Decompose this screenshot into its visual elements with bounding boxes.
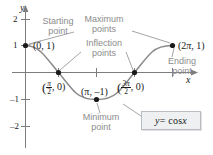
equation-callout-box: y = cos x bbox=[141, 111, 201, 130]
y-tick-neg1: –1 bbox=[10, 95, 19, 104]
point-inflection-1 bbox=[56, 70, 61, 75]
point-label-end: (2π, 1) bbox=[178, 41, 205, 51]
starting-point-line2: point bbox=[48, 26, 68, 36]
ending-point-line1: Ending bbox=[168, 56, 196, 66]
y-axis bbox=[21, 5, 30, 148]
pi32-numerator: 3π bbox=[121, 80, 131, 88]
y-tick-2: 2 bbox=[13, 15, 18, 24]
end-label-rest: , 1) bbox=[191, 40, 204, 51]
point-minimum bbox=[94, 97, 99, 102]
inflection-points-line2: points bbox=[92, 48, 116, 58]
point-inflection-2 bbox=[132, 70, 137, 75]
pi2-fraction: π2 bbox=[46, 80, 52, 96]
point-start bbox=[23, 43, 28, 48]
equation-operator: = cos bbox=[160, 115, 182, 126]
annotation-minimum-point: Minimum point bbox=[74, 112, 128, 132]
minimum-point-line1: Minimum bbox=[83, 112, 120, 122]
pi2-rest: , 0) bbox=[52, 81, 65, 92]
minimum-point-line2: point bbox=[91, 122, 111, 132]
pi2-numerator: π bbox=[46, 80, 52, 88]
point-label-pi-over-2: (π2, 0) bbox=[42, 80, 65, 96]
equation-x: x bbox=[182, 115, 187, 126]
annotation-ending-point: Ending point bbox=[158, 56, 206, 76]
y-axis-label: y bbox=[20, 3, 24, 13]
pi32-denominator: 2 bbox=[121, 87, 131, 96]
pi32-rest: , 0) bbox=[131, 81, 144, 92]
x-axis-label: x bbox=[186, 75, 190, 85]
pi32-fraction: 3π2 bbox=[121, 80, 131, 96]
ending-point-line2: point bbox=[172, 66, 192, 76]
pi2-denominator: 2 bbox=[46, 87, 52, 96]
y-tick-1: 1 bbox=[13, 41, 18, 50]
y-tick-neg2: –2 bbox=[10, 122, 19, 131]
point-end bbox=[170, 43, 175, 48]
maximum-points-line2: points bbox=[92, 24, 116, 34]
starting-point-line1: Starting bbox=[42, 16, 73, 26]
point-label-start: (0, 1) bbox=[33, 41, 55, 51]
annotation-inflection-points: Inflection points bbox=[78, 38, 130, 58]
annotation-maximum-points: Maximum points bbox=[75, 14, 133, 34]
inflection-points-line1: Inflection bbox=[86, 38, 122, 48]
maximum-points-line1: Maximum bbox=[84, 14, 123, 24]
cosine-graph-figure: y x 2 1 –1 –2 Starting point Maximum poi… bbox=[0, 0, 213, 155]
point-label-pi-minus-1: (π, –1) bbox=[81, 87, 108, 97]
point-label-3pi-over-2: (3π2, 0) bbox=[117, 80, 144, 96]
